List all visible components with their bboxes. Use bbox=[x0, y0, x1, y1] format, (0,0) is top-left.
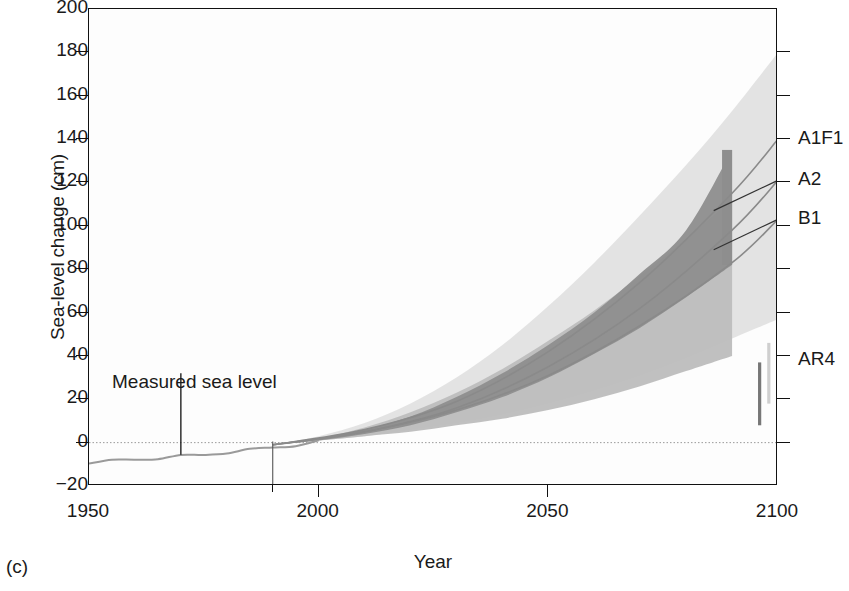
right-axis-tick bbox=[777, 268, 790, 269]
x-axis-title: Year bbox=[88, 551, 778, 573]
y-tick-label: −20 bbox=[32, 474, 88, 493]
x-tick-minor bbox=[272, 485, 273, 492]
scenario-label-a1f1: A1F1 bbox=[798, 127, 843, 149]
y-tick-label: 120 bbox=[32, 170, 88, 189]
y-tick-label: 60 bbox=[32, 301, 88, 320]
y-tick-label: 100 bbox=[32, 214, 88, 233]
scenario-label-a2: A2 bbox=[798, 168, 821, 190]
measured-sea-level-label: Measured sea level bbox=[112, 371, 277, 393]
y-tick-label: 40 bbox=[32, 344, 88, 363]
x-tick-label: 2000 bbox=[297, 500, 339, 522]
y-tick-label: 160 bbox=[32, 84, 88, 103]
ar4-bar-dark bbox=[758, 362, 761, 425]
right-axis-tick bbox=[777, 225, 790, 226]
panel-caption: (c) bbox=[6, 556, 28, 578]
y-tick-label: 80 bbox=[32, 257, 88, 276]
y-tick-label: 200 bbox=[32, 0, 88, 16]
ar4-range-bars bbox=[758, 343, 770, 425]
right-axis-tick bbox=[777, 398, 790, 399]
plot-canvas bbox=[89, 9, 777, 485]
x-tick-label: 2050 bbox=[526, 500, 568, 522]
sea-level-chart: Sea-level change (cm) −20020406080100120… bbox=[0, 0, 849, 591]
ar4-bar-light bbox=[767, 343, 770, 404]
scenario-label-b1: B1 bbox=[798, 207, 821, 229]
y-tick-label: 140 bbox=[32, 127, 88, 146]
right-axis-tick bbox=[777, 312, 790, 313]
y-tick-label: 0 bbox=[32, 431, 88, 450]
y-tick-label: 180 bbox=[32, 40, 88, 59]
band-dark-terminal-edge bbox=[722, 150, 732, 265]
plot-area bbox=[88, 8, 777, 485]
right-axis-tick bbox=[777, 51, 790, 52]
y-tick-label: 20 bbox=[32, 387, 88, 406]
right-axis-tick bbox=[777, 181, 790, 182]
x-tick-label: 2100 bbox=[756, 500, 798, 522]
right-axis-tick bbox=[777, 355, 790, 356]
x-tick-mark bbox=[318, 485, 319, 497]
right-axis-tick bbox=[777, 442, 790, 443]
scenario-label-ar4: AR4 bbox=[798, 348, 835, 370]
x-tick-label: 1950 bbox=[67, 500, 109, 522]
right-axis-tick bbox=[777, 138, 790, 139]
right-axis-tick bbox=[777, 95, 790, 96]
x-tick-mark bbox=[547, 485, 548, 497]
